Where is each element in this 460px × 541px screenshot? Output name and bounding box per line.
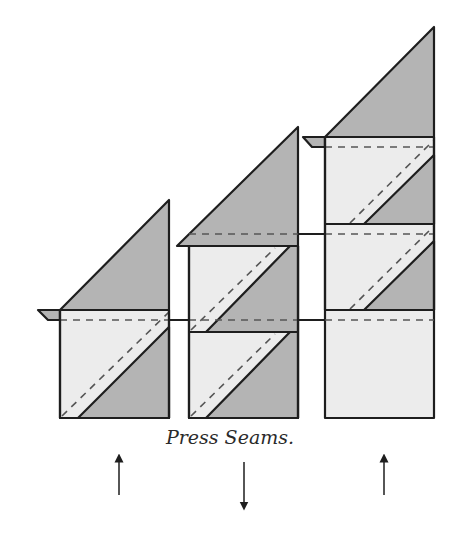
press-arrows (119, 458, 384, 506)
press-seams-caption: Press Seams. (0, 426, 460, 448)
quilt-piecing-diagram (0, 0, 460, 541)
right-flap (303, 137, 325, 147)
middle-column (177, 127, 298, 418)
right-block-3 (325, 310, 434, 418)
left-top-triangle (60, 200, 169, 310)
middle-top-triangle (177, 127, 298, 246)
right-top-triangle (325, 27, 434, 137)
left-column (38, 200, 169, 418)
right-column (303, 27, 434, 418)
left-flap (38, 310, 60, 320)
